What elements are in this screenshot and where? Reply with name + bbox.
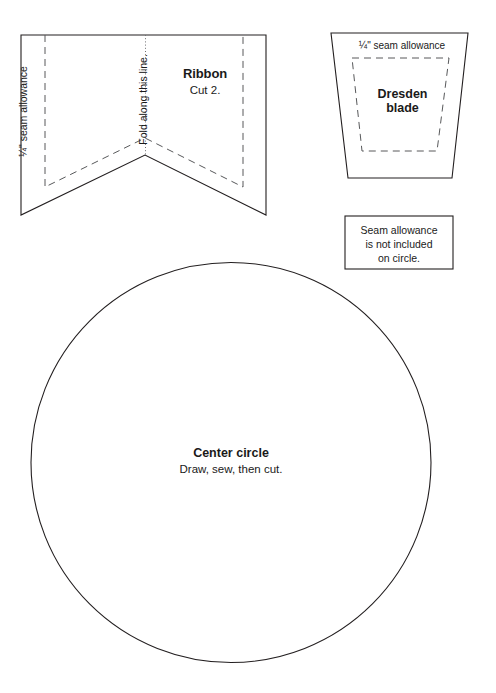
note-line-2: is not included (349, 238, 449, 251)
dresden-seam-allowance-label: ¼" seam allowance (337, 40, 467, 52)
ribbon-fold-label: Fold along this line. (137, 43, 150, 155)
dresden-title-line-1: Dresden (355, 87, 450, 102)
center-circle-title: Center circle (146, 446, 316, 461)
center-circle-subtitle: Draw, sew, then cut. (146, 462, 316, 476)
dresden-title-line-2: blade (355, 101, 450, 116)
ribbon-seam-allowance-label: ¼" seam allowance (17, 56, 30, 166)
pattern-sheet: Ribbon Cut 2. ¼" seam allowance Fold alo… (0, 0, 496, 693)
ribbon-title: Ribbon (170, 66, 240, 82)
ribbon-cut-instruction: Cut 2. (170, 83, 240, 97)
note-line-3: on circle. (349, 252, 449, 265)
note-line-1: Seam allowance (349, 224, 449, 237)
